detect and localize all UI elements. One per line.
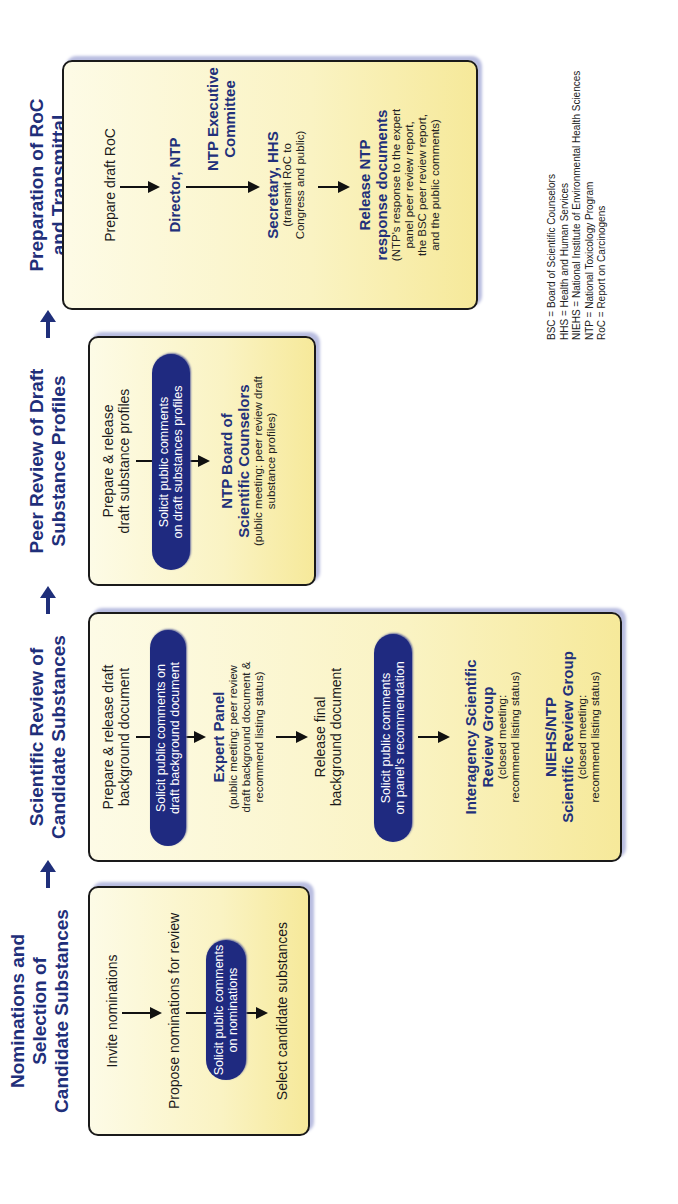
flow-arrow-icon bbox=[122, 1006, 162, 1020]
step-label: NTP Executive bbox=[204, 64, 221, 174]
step-label: Prepare draft RoC bbox=[102, 60, 118, 310]
title-line: Selection of bbox=[29, 909, 51, 1113]
pill-text: Solicit public comments bbox=[212, 945, 226, 1076]
abbreviation-legend: BSC = Board of Scientific Counselors HHS… bbox=[546, 71, 609, 340]
title-line: Candidate Substances bbox=[51, 909, 73, 1113]
step-detail: (public meeting: peer review draft bbox=[252, 336, 265, 586]
step-label: NIEHS/NTP bbox=[542, 612, 559, 862]
pill-text: on panel's recommendation bbox=[393, 661, 407, 814]
step-detail: (transmit RoC to bbox=[281, 60, 294, 310]
legend-item: NIEHS = National Institute of Environmen… bbox=[571, 71, 584, 340]
step-detail: (NTP's response to the expert bbox=[390, 60, 403, 310]
legend-item: NTP = National Toxicology Program bbox=[584, 71, 597, 340]
legend-item: BSC = Board of Scientific Counselors bbox=[546, 71, 559, 340]
step-label: NTP Board of bbox=[218, 336, 235, 586]
step-prepare-draft-substance-profiles: Prepare & release draft substance profil… bbox=[100, 336, 132, 586]
step-detail: substance profiles) bbox=[265, 336, 278, 586]
step-ntp-board-scientific-counselors: NTP Board of Scientific Counselors (publ… bbox=[218, 336, 278, 586]
step-label: Scientific Counselors bbox=[235, 336, 252, 586]
step-label: Prepare & release bbox=[100, 336, 116, 586]
step-detail: (closed meeting: bbox=[576, 612, 589, 862]
step-detail: recommend listing status) bbox=[253, 612, 266, 862]
title-line: Peer Review of Draft bbox=[26, 369, 48, 554]
step-detail: Congress and public) bbox=[294, 60, 307, 310]
roc-process-diagram: Nominations and Selection of Candidate S… bbox=[0, 0, 678, 1204]
step-label: background document bbox=[116, 612, 132, 862]
step-detail: panel peer review report, bbox=[403, 60, 416, 310]
step-detail: (public meeting: peer review bbox=[227, 612, 240, 862]
step-interagency-scientific-review-group: Interagency Scientific Review Group (clo… bbox=[462, 612, 522, 862]
step-detail: the BSC peer review report, bbox=[416, 60, 429, 310]
step-label: Interagency Scientific bbox=[462, 612, 479, 862]
step-label: Propose nominations for review bbox=[166, 886, 182, 1136]
step-label: Release NTP bbox=[356, 60, 373, 310]
pill-solicit-comments-panel-recommendation: Solicit public comments on panel's recom… bbox=[374, 634, 412, 842]
flow-arrow-icon bbox=[318, 180, 350, 194]
step-release-final-background: Release final background document bbox=[312, 612, 344, 862]
flow-arrow-icon bbox=[276, 730, 308, 744]
flow-arrow-icon bbox=[418, 730, 450, 744]
step-secretary-hhs: Secretary, HHS (transmit RoC to Congress… bbox=[264, 60, 307, 310]
step-label: Expert Panel bbox=[210, 612, 227, 862]
step-invite-nominations: Invite nominations bbox=[104, 886, 120, 1136]
step-director-ntp: Director, NTP bbox=[166, 60, 183, 310]
title-line: Scientific Review of bbox=[26, 635, 48, 839]
step-expert-panel: Expert Panel (public meeting: peer revie… bbox=[210, 612, 266, 862]
pill-text: draft background document bbox=[168, 662, 182, 814]
step-label: response documents bbox=[373, 60, 390, 310]
step-detail: recommend listing status) bbox=[589, 612, 602, 862]
step-release-ntp-response-documents: Release NTP response documents (NTP's re… bbox=[356, 60, 442, 310]
flow-arrow-icon bbox=[120, 180, 160, 194]
pill-text: on nominations bbox=[226, 945, 240, 1076]
step-detail: (closed meeting: bbox=[496, 612, 509, 862]
step-label: Select candidate substances bbox=[274, 886, 290, 1136]
pill-text: Solicit public comments bbox=[157, 386, 171, 539]
stage-arrow-icon bbox=[40, 586, 56, 614]
step-niehs-ntp-scientific-review-group: NIEHS/NTP Scientific Review Group (close… bbox=[542, 612, 602, 862]
step-label: Review Group bbox=[479, 612, 496, 862]
step-label: Scientific Review Group bbox=[559, 612, 576, 862]
stage-title-nominations: Nominations and Selection of Candidate S… bbox=[4, 886, 76, 1136]
stage-title-scientific-review: Scientific Review of Candidate Substance… bbox=[20, 612, 76, 862]
step-detail: recommend listing status) bbox=[509, 612, 522, 862]
stage-title-peer-review: Peer Review of Draft Substance Profiles bbox=[20, 336, 76, 586]
step-select-candidate-substances: Select candidate substances bbox=[274, 886, 290, 1136]
legend-item: RoC = Report on Carcinogens bbox=[596, 71, 609, 340]
step-detail: draft background document & bbox=[240, 612, 253, 862]
pill-text: on draft substances profiles bbox=[171, 386, 185, 539]
stage-arrow-icon bbox=[40, 860, 56, 888]
pill-solicit-comments-substance-profiles: Solicit public comments on draft substan… bbox=[152, 354, 190, 570]
pill-solicit-comments-draft-background: Solicit public comments on draft backgro… bbox=[150, 630, 186, 846]
pill-text: Solicit public comments on bbox=[154, 662, 168, 814]
stage-arrow-icon bbox=[40, 310, 56, 338]
step-label: Secretary, HHS bbox=[264, 60, 281, 310]
step-label: draft substance profiles bbox=[116, 336, 132, 586]
flow-arrow-icon bbox=[186, 180, 260, 194]
step-ntp-executive-committee: NTP Executive Committee bbox=[204, 64, 238, 174]
step-detail: and the public comments) bbox=[429, 60, 442, 310]
step-label: Release final bbox=[312, 612, 328, 862]
step-prepare-draft-background: Prepare & release draft background docum… bbox=[100, 612, 132, 862]
step-prepare-draft-roc: Prepare draft RoC bbox=[102, 60, 118, 310]
title-line: Candidate Substances bbox=[48, 635, 70, 839]
step-propose-nominations: Propose nominations for review bbox=[166, 886, 182, 1136]
pill-text: Solicit public comments bbox=[379, 661, 393, 814]
step-label: Committee bbox=[221, 64, 238, 174]
legend-item: HHS = Health and Human Services bbox=[559, 71, 572, 340]
step-label: Director, NTP bbox=[166, 60, 183, 310]
step-label: Invite nominations bbox=[104, 886, 120, 1136]
title-line: Preparation of RoC bbox=[26, 98, 48, 271]
title-line: Nominations and bbox=[7, 909, 29, 1113]
step-label: Prepare & release draft bbox=[100, 612, 116, 862]
title-line: Substance Profiles bbox=[48, 369, 70, 554]
pill-solicit-comments-nominations: Solicit public comments on nominations bbox=[206, 940, 246, 1080]
step-label: background document bbox=[328, 612, 344, 862]
